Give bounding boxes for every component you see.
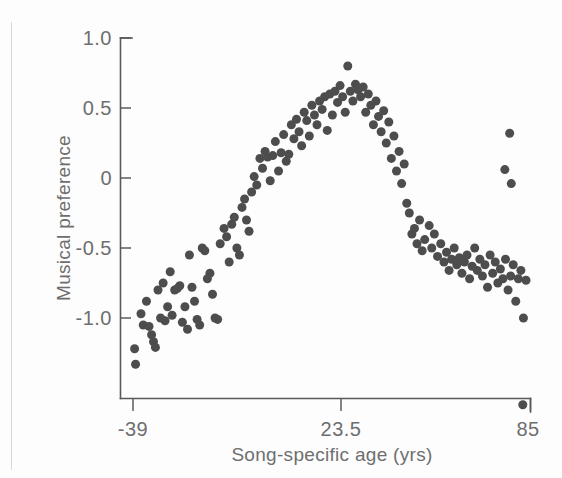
data-point: [384, 118, 393, 127]
data-point: [168, 311, 177, 320]
data-point: [498, 274, 507, 283]
data-point: [180, 302, 189, 311]
data-point: [377, 127, 386, 136]
data-point: [297, 141, 306, 150]
data-point: [130, 344, 139, 353]
data-point: [323, 126, 332, 135]
data-point: [310, 111, 319, 120]
data-point: [284, 150, 293, 159]
data-point: [514, 274, 523, 283]
data-point: [166, 267, 175, 276]
y-tick-label-2: 0.5: [83, 97, 112, 119]
data-point: [237, 203, 246, 212]
data-point: [213, 315, 222, 324]
data-point: [364, 90, 373, 99]
x-tick-label-1: -39: [118, 418, 148, 440]
data-point: [506, 272, 515, 281]
data-point: [343, 62, 352, 71]
data-point: [145, 322, 154, 331]
data-point: [200, 246, 209, 255]
data-point: [518, 400, 527, 409]
data-point: [220, 224, 229, 233]
data-point: [480, 260, 489, 269]
data-point: [252, 181, 261, 190]
data-point: [279, 130, 288, 139]
data-point: [465, 274, 474, 283]
data-point: [338, 92, 347, 101]
data-point: [425, 221, 434, 230]
y-axis-title: Musical preference: [53, 135, 74, 301]
data-point: [415, 216, 424, 225]
data-point: [328, 111, 337, 120]
data-point: [450, 244, 459, 253]
data-point: [511, 297, 520, 306]
y-tick-label-5: -1.0: [76, 307, 112, 329]
data-point: [300, 108, 309, 117]
data-point: [405, 209, 414, 218]
data-point: [341, 108, 350, 117]
data-point: [371, 97, 380, 106]
data-point: [302, 116, 311, 125]
data-point: [292, 115, 301, 124]
data-point: [318, 105, 327, 114]
data-point: [382, 139, 391, 148]
figure-page: 1.0 0.5 0 -0.5 -1.0 -39 23.5 85 Song-spe…: [0, 0, 562, 478]
data-point: [225, 258, 234, 267]
data-point: [336, 81, 345, 90]
data-point: [230, 213, 239, 222]
x-axis-title: Song-specific age (yrs): [231, 444, 432, 465]
data-point: [161, 316, 170, 325]
scatter-plot: 1.0 0.5 0 -0.5 -1.0 -39 23.5 85 Song-spe…: [0, 0, 562, 478]
data-point: [439, 258, 448, 267]
x-tick-label-3: 85: [516, 418, 539, 440]
data-point: [420, 235, 429, 244]
data-point: [185, 251, 194, 260]
data-point: [235, 251, 244, 260]
x-axis-ticks: [133, 399, 531, 412]
data-point: [142, 297, 151, 306]
data-point: [183, 325, 192, 334]
data-point: [519, 314, 528, 323]
data-point: [195, 321, 204, 330]
data-point: [457, 269, 466, 278]
data-point: [295, 127, 304, 136]
data-point: [208, 290, 217, 299]
data-point: [400, 160, 409, 169]
data-point: [305, 132, 314, 141]
data-point: [507, 179, 516, 188]
data-point: [250, 172, 259, 181]
data-point: [427, 244, 436, 253]
data-point: [245, 227, 254, 236]
data-point: [478, 272, 487, 281]
data-point: [163, 302, 172, 311]
data-point: [277, 148, 286, 157]
data-point: [500, 165, 509, 174]
data-point: [266, 176, 275, 185]
data-point: [397, 179, 406, 188]
data-point: [522, 276, 531, 285]
y-tick-label-4: -0.5: [76, 237, 112, 259]
data-point: [216, 239, 225, 248]
data-point: [313, 120, 322, 129]
data-point: [395, 147, 404, 156]
data-point: [356, 92, 365, 101]
data-point: [379, 106, 388, 115]
data-point: [389, 132, 398, 141]
data-point: [436, 239, 445, 248]
data-point: [402, 199, 411, 208]
x-tick-label-2: 23.5: [321, 418, 362, 440]
data-point: [488, 269, 497, 278]
data-point: [392, 167, 401, 176]
data-point: [137, 309, 146, 318]
data-point: [387, 154, 396, 163]
data-point: [418, 246, 427, 255]
data-point: [205, 269, 214, 278]
data-point: [271, 137, 280, 146]
data-point: [131, 360, 140, 369]
data-point: [258, 164, 267, 173]
y-axis-ticks: [121, 38, 132, 318]
data-point: [240, 195, 249, 204]
data-point: [268, 151, 277, 160]
data-point: [159, 279, 168, 288]
data-point: [187, 283, 196, 292]
